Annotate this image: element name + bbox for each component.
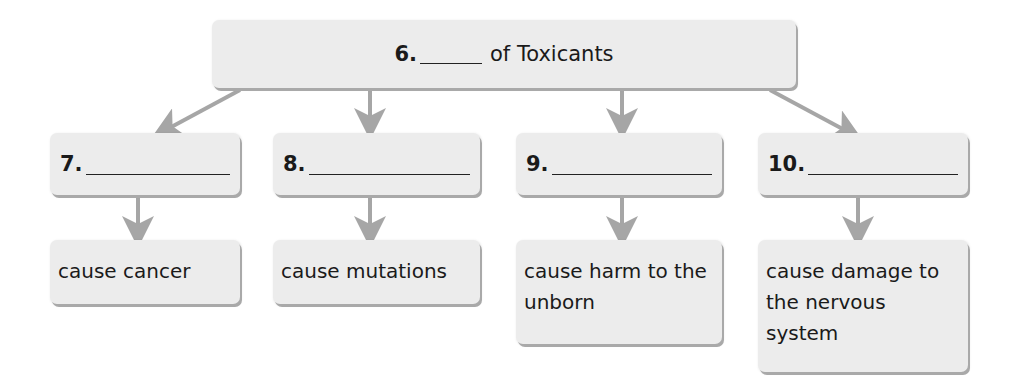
description-text: cause cancer xyxy=(58,259,190,283)
category-number: 10. xyxy=(768,152,805,176)
category-number: 8. xyxy=(283,152,306,176)
category-box-7: 7. xyxy=(50,133,240,195)
title-box: 6. of Toxicants xyxy=(212,20,796,88)
category-number: 7. xyxy=(60,152,83,176)
description-box-7: cause cancer xyxy=(50,240,240,304)
arrow-to-10 xyxy=(770,90,852,134)
category-box-8: 8. xyxy=(273,133,480,195)
description-box-8: cause mutations xyxy=(273,240,480,304)
title-number: 6. xyxy=(394,42,417,66)
description-box-9: cause harm to the unborn xyxy=(516,240,722,344)
category-box-10: 10. xyxy=(758,133,968,195)
category-blank[interactable] xyxy=(309,154,470,175)
category-blank[interactable] xyxy=(86,154,230,175)
description-text: cause mutations xyxy=(281,259,447,283)
description-text: cause harm to the unborn xyxy=(524,259,707,314)
description-box-10: cause damage to the nervous system xyxy=(758,240,968,372)
category-box-9: 9. xyxy=(516,133,722,195)
category-number: 9. xyxy=(526,152,549,176)
title-blank[interactable] xyxy=(420,45,482,64)
arrow-to-7 xyxy=(162,90,240,132)
category-blank[interactable] xyxy=(552,154,712,175)
description-text: cause damage to the nervous system xyxy=(766,259,939,345)
title-text: of Toxicants xyxy=(490,42,614,66)
category-blank[interactable] xyxy=(808,154,958,175)
